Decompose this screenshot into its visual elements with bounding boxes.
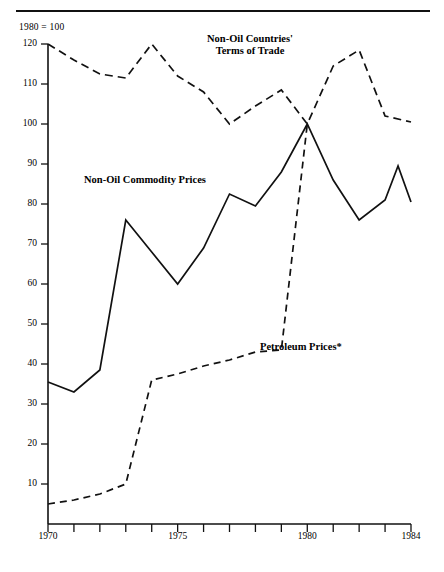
y-axis-tick-label: 60 <box>11 278 37 288</box>
y-axis-tick-label: 20 <box>11 438 37 448</box>
y-axis-tick-label: 10 <box>11 478 37 488</box>
chart-figure: 1980 = 100 Non-Oil Countries' Terms of T… <box>0 0 444 572</box>
y-axis-tick-label: 100 <box>11 118 37 128</box>
y-axis-tick-label: 40 <box>11 358 37 368</box>
y-axis-tick-label: 30 <box>11 398 37 408</box>
series-label-commodity-prices: Non-Oil Commodity Prices <box>84 174 244 186</box>
y-axis-tick-label: 50 <box>11 318 37 328</box>
plot-area <box>0 0 444 572</box>
x-axis-tick-label: 1980 <box>287 531 327 541</box>
x-axis-ticks <box>48 524 411 532</box>
terms-of-trade-label-line-1: Non-Oil Countries' <box>207 33 293 44</box>
y-axis-tick-label: 70 <box>11 238 37 248</box>
y-axis-ticks <box>41 44 48 484</box>
y-axis-tick-label: 80 <box>11 198 37 208</box>
y-axis-tick-label: 110 <box>11 78 37 88</box>
y-axis-tick-label: 120 <box>11 38 37 48</box>
series-label-terms-of-trade: Non-Oil Countries' Terms of Trade <box>185 33 315 57</box>
x-axis-tick-label: 1984 <box>391 531 431 541</box>
x-axis-tick-label: 1970 <box>28 531 68 541</box>
x-axis-tick-label: 1975 <box>158 531 198 541</box>
terms-of-trade-label-line-2: Terms of Trade <box>216 45 285 56</box>
y-axis-tick-label: 90 <box>11 158 37 168</box>
series-label-petroleum-prices: Petroleum Prices* <box>260 341 390 353</box>
